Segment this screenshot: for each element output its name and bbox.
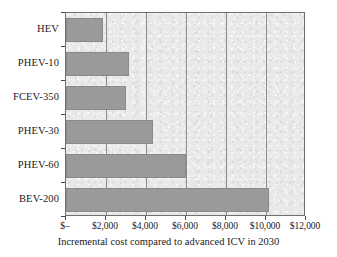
bar-band [66, 149, 304, 183]
y-axis-tick [61, 46, 65, 47]
x-axis-tick-label: $6,000 [172, 221, 198, 232]
x-axis-tick-label: $2,000 [92, 221, 118, 232]
bar-hev[interactable] [66, 18, 103, 42]
x-axis-tick-label: $12,000 [290, 221, 321, 232]
y-axis-tick [61, 114, 65, 115]
bar-band [66, 47, 304, 81]
x-axis-tick [185, 216, 186, 220]
y-axis-tick [61, 148, 65, 149]
bar-chart-figure: HEVPHEV-10FCEV-350PHEV-30PHEV-60BEV-200 … [0, 0, 337, 257]
bar-band [66, 13, 304, 47]
y-axis-label-bev-200: BEV-200 [19, 193, 59, 204]
y-axis-tick [61, 182, 65, 183]
y-axis-label-phev-30: PHEV-30 [18, 125, 59, 136]
x-axis-tick-label: $– [60, 221, 69, 232]
x-axis-tick-label: $8,000 [212, 221, 238, 232]
bar-phev-30[interactable] [66, 120, 153, 144]
y-axis-label-phev-60: PHEV-60 [18, 159, 59, 170]
bar-phev-60[interactable] [66, 154, 186, 178]
y-axis-label-phev-10: PHEV-10 [18, 57, 59, 68]
x-axis-tick-label: $4,000 [132, 221, 158, 232]
bar-fcev-350[interactable] [66, 86, 126, 110]
x-axis-tick-label: $10,000 [250, 221, 281, 232]
bar-phev-10[interactable] [66, 52, 129, 76]
y-axis-label-fcev-350: FCEV-350 [13, 91, 59, 102]
bar-bev-200[interactable] [66, 188, 269, 212]
x-axis-tick [65, 216, 66, 220]
y-axis-tick [61, 12, 65, 13]
x-axis-tick [145, 216, 146, 220]
y-axis-label-hev: HEV [37, 23, 59, 34]
bar-band [66, 115, 304, 149]
x-axis-tick [225, 216, 226, 220]
x-axis-tick [265, 216, 266, 220]
x-axis-title: Incremental cost compared to advanced IC… [0, 236, 337, 248]
bar-band [66, 81, 304, 115]
x-axis-tick [305, 216, 306, 220]
x-axis-tick [105, 216, 106, 220]
y-axis-tick [61, 80, 65, 81]
bar-band [66, 183, 304, 216]
plot-area [65, 12, 305, 216]
